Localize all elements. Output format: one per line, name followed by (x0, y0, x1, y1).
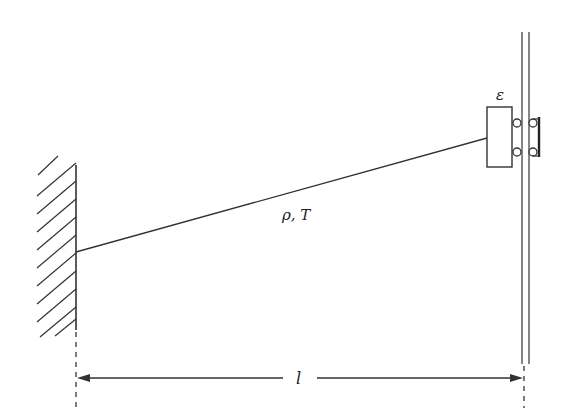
string-block-diagram: ρ, T ε l (0, 0, 569, 410)
arrowhead-right-icon (510, 374, 523, 382)
fixed-wall (37, 156, 76, 408)
roller-icon (513, 148, 521, 156)
wall-hatching (37, 156, 76, 337)
vertical-rail (522, 32, 529, 364)
mass-block (487, 107, 512, 167)
block-label: ε (496, 86, 504, 104)
roller-icon (529, 148, 537, 156)
rollers (513, 119, 537, 156)
arrowhead-left-icon (77, 374, 90, 382)
length-label: l (296, 369, 301, 388)
string (76, 138, 487, 252)
string-label: ρ, T (281, 206, 311, 224)
roller-icon (529, 119, 537, 127)
roller-icon (513, 119, 521, 127)
